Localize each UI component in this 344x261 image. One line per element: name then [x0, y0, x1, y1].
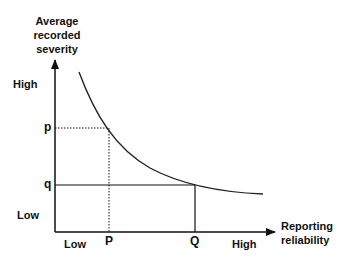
marker-p: p [44, 120, 51, 134]
x-tick-high: High [232, 237, 256, 251]
marker-P: P [105, 234, 113, 248]
y-tick-low: Low [17, 208, 39, 222]
y-axis-title: Average recorded severity [22, 14, 92, 56]
y-tick-high: High [13, 77, 37, 91]
severity-curve [79, 72, 263, 194]
marker-Q: Q [190, 234, 199, 248]
marker-q: q [44, 177, 51, 191]
x-axis-title: Reporting reliability [281, 219, 333, 247]
x-tick-low: Low [64, 237, 86, 251]
